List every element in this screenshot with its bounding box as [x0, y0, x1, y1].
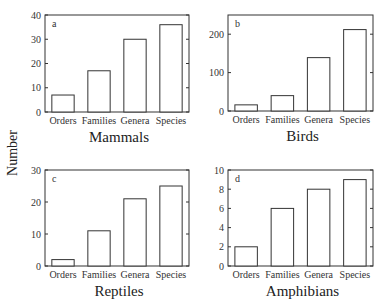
bar-families — [88, 231, 110, 266]
y-tick-label: 0 — [36, 107, 41, 118]
x-category-label: Orders — [49, 115, 76, 126]
x-category-label: Genera — [304, 114, 333, 125]
x-category-label: Orders — [233, 269, 260, 280]
bar-orders — [52, 260, 74, 266]
panel-title: Amphibians — [266, 283, 339, 299]
y-tick-label: 8 — [219, 184, 224, 195]
bar-genera — [307, 189, 329, 266]
x-category-label: Genera — [121, 115, 150, 126]
x-category-label: Families — [265, 269, 300, 280]
x-category-label: Species — [156, 115, 187, 126]
bar-families — [88, 71, 110, 112]
x-category-label: Species — [156, 269, 187, 280]
panel-title: Reptiles — [94, 283, 143, 299]
bar-species — [160, 25, 182, 112]
panel-c-reptiles: 0102030OrdersFamiliesGeneraSpeciescRepti… — [31, 165, 189, 300]
bar-families — [271, 96, 293, 111]
y-tick-label: 200 — [209, 29, 224, 40]
bar-orders — [235, 247, 257, 266]
bar-genera — [307, 58, 329, 111]
y-tick-label: 0 — [219, 261, 224, 272]
bar-orders — [52, 95, 74, 112]
y-tick-label: 100 — [209, 67, 224, 78]
y-tick-label: 10 — [31, 229, 41, 240]
bar-genera — [124, 39, 146, 112]
y-tick-label: 10 — [214, 165, 224, 176]
panel-letter: a — [52, 18, 57, 29]
x-category-label: Species — [340, 269, 371, 280]
bar-species — [344, 30, 366, 111]
bar-species — [160, 186, 182, 266]
x-category-label: Families — [82, 269, 117, 280]
y-tick-label: 6 — [219, 203, 224, 214]
panel-title: Mammals — [89, 129, 149, 145]
y-tick-label: 40 — [31, 10, 41, 21]
x-category-label: Genera — [121, 269, 150, 280]
y-tick-label: 20 — [31, 58, 41, 69]
bar-genera — [124, 199, 146, 266]
x-category-label: Orders — [233, 114, 260, 125]
panel-title: Birds — [286, 128, 319, 144]
bar-families — [271, 208, 293, 266]
y-tick-label: 2 — [219, 241, 224, 252]
bar-orders — [235, 105, 257, 111]
bar-species — [344, 180, 366, 266]
y-tick-label: 0 — [36, 261, 41, 272]
x-category-label: Families — [265, 114, 300, 125]
y-tick-label: 20 — [31, 197, 41, 208]
panel-letter: b — [235, 18, 240, 29]
y-tick-label: 10 — [31, 82, 41, 93]
y-axis-title: Number — [5, 130, 20, 176]
figure: Number 010203040OrdersFamiliesGeneraSpec… — [0, 0, 386, 306]
y-tick-label: 30 — [31, 34, 41, 45]
x-category-label: Species — [340, 114, 371, 125]
panel-letter: c — [52, 173, 57, 184]
y-tick-label: 0 — [219, 106, 224, 117]
x-category-label: Genera — [304, 269, 333, 280]
panel-d-amphibians: 0246810OrdersFamiliesGeneraSpeciesdAmphi… — [214, 165, 373, 300]
panel-letter: d — [235, 173, 240, 184]
panel-b-birds: 0100200OrdersFamiliesGeneraSpeciesbBirds — [209, 15, 373, 144]
y-tick-label: 30 — [31, 165, 41, 176]
x-category-label: Families — [82, 115, 117, 126]
x-category-label: Orders — [49, 269, 76, 280]
y-tick-label: 4 — [219, 222, 224, 233]
panel-a-mammals: 010203040OrdersFamiliesGeneraSpeciesaMam… — [31, 10, 189, 146]
